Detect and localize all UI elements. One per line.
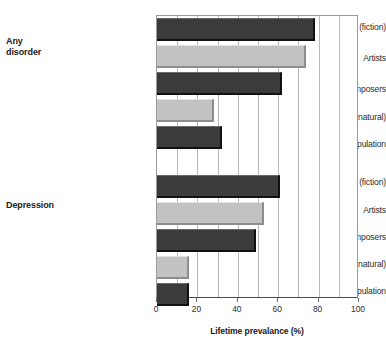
bar-any-disorder-writers-fiction (157, 18, 315, 41)
bar-chart: Any disorder Depression Writers (fiction… (0, 0, 386, 355)
group-title-depression: Depression (6, 200, 84, 211)
group-title-any-disorder-line2: disorder (6, 47, 84, 58)
bar-any-disorder-general-population (157, 126, 222, 149)
bar-any-disorder-composers (157, 72, 282, 95)
x-tick-label: 100 (351, 304, 365, 314)
x-tick-label: 20 (192, 304, 201, 314)
x-tick-mark (358, 298, 359, 302)
bar-depression-scientists-natural (157, 256, 189, 279)
x-tick-label: 0 (154, 304, 159, 314)
group-title-any-disorder: Any disorder (6, 36, 84, 57)
group-title-depression-line1: Depression (6, 200, 84, 211)
x-tick-mark (277, 298, 278, 302)
x-tick-label: 40 (232, 304, 241, 314)
x-tick-mark (237, 298, 238, 302)
bar-depression-general-population (157, 283, 189, 306)
bar-any-disorder-scientists-natural (157, 99, 214, 122)
bar-any-disorder-artists (157, 45, 306, 68)
gridline (319, 16, 320, 297)
bar-depression-writers-fiction (157, 175, 280, 198)
x-tick-mark (156, 298, 157, 302)
x-tick-mark (196, 298, 197, 302)
plot-area (156, 15, 358, 298)
bar-depression-composers (157, 229, 256, 252)
x-tick-label: 60 (273, 304, 282, 314)
gridline-minor (339, 16, 340, 297)
x-axis-title: Lifetime prevalance (%) (156, 326, 358, 336)
group-title-any-disorder-line1: Any (6, 36, 84, 47)
bar-depression-artists (157, 202, 264, 225)
x-tick-label: 80 (313, 304, 322, 314)
x-tick-mark (318, 298, 319, 302)
